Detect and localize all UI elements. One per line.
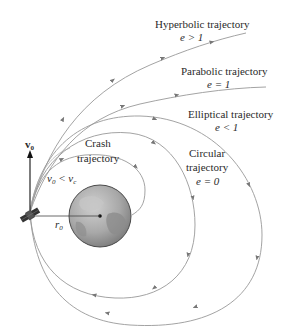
parabolic-trajectory-curve	[30, 87, 266, 212]
parabolic-arrow-2	[172, 95, 177, 96]
elliptical-arrow-3	[257, 253, 258, 258]
crash-arrow-1	[58, 159, 62, 161]
crash-label-line1: Crash	[85, 137, 111, 149]
radius-label: r0	[55, 218, 63, 234]
parabolic-title-label: Parabolic trajectory	[181, 65, 267, 77]
elliptical-title-label: Elliptical trajectory	[188, 108, 273, 120]
hyperbolic-arrow-1	[60, 119, 63, 125]
velocity-label: v0	[25, 138, 34, 154]
elliptical-trajectory-curve	[30, 116, 262, 326]
hyperbolic-title-label: Hyperbolic trajectory	[155, 18, 249, 30]
circular-condition-label: e = 0	[196, 175, 219, 187]
elliptical-condition-label: e < 1	[215, 121, 238, 133]
elliptical-arrow-4	[195, 305, 200, 307]
elliptical-arrow-5	[107, 313, 112, 314]
hyperbolic-arrow-2	[108, 80, 113, 84]
parabolic-condition-label: e = 1	[207, 78, 230, 90]
crash-condition-label: v0 < vc	[47, 172, 76, 188]
parabolic-arrow-1	[118, 106, 123, 108]
circular-arrow-3	[188, 250, 189, 255]
hyperbolic-condition-label: e > 1	[180, 31, 203, 43]
circular-label-line2: trajectory	[186, 161, 228, 173]
trajectory-diagram	[0, 0, 285, 331]
circular-label-line1: Circular	[189, 147, 225, 159]
crash-label-line2: trajectory	[77, 152, 119, 164]
circular-arrow-4	[154, 285, 158, 288]
